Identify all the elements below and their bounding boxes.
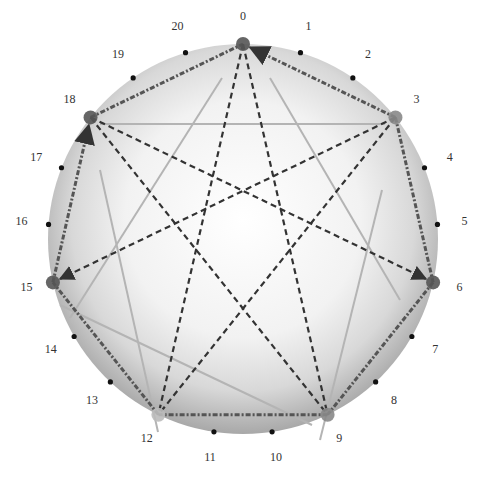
node-label: 17 bbox=[30, 150, 42, 164]
node-label: 15 bbox=[21, 280, 33, 294]
tick-dot bbox=[131, 75, 136, 80]
sphere-background bbox=[48, 44, 438, 434]
node-label: 5 bbox=[461, 214, 467, 228]
tick-dot bbox=[72, 334, 77, 339]
tick-dot bbox=[373, 379, 378, 384]
node-15 bbox=[46, 275, 60, 289]
tick-dot bbox=[409, 334, 414, 339]
node-3 bbox=[388, 110, 402, 124]
node-label: 6 bbox=[456, 280, 462, 294]
node-label: 19 bbox=[112, 47, 124, 61]
node-label: 4 bbox=[447, 150, 453, 164]
node-label: 16 bbox=[16, 214, 28, 228]
node-9 bbox=[321, 408, 335, 422]
node-label: 11 bbox=[204, 450, 216, 464]
node-label: 7 bbox=[432, 342, 438, 356]
tick-dot bbox=[183, 50, 188, 55]
tick-dot bbox=[350, 75, 355, 80]
node-label: 2 bbox=[365, 47, 371, 61]
node-label: 8 bbox=[391, 393, 397, 407]
node-label: 14 bbox=[45, 342, 57, 356]
node-label: 9 bbox=[336, 431, 342, 445]
node-label: 0 bbox=[240, 9, 246, 23]
tick-dot bbox=[269, 429, 274, 434]
tick-dot bbox=[298, 50, 303, 55]
node-label: 13 bbox=[86, 393, 98, 407]
node-0 bbox=[236, 37, 250, 51]
node-label: 10 bbox=[270, 450, 282, 464]
tick-dot bbox=[59, 165, 64, 170]
tick-dot bbox=[46, 222, 51, 227]
node-label: 20 bbox=[172, 19, 184, 33]
node-label: 1 bbox=[305, 19, 311, 33]
tick-dot bbox=[211, 429, 216, 434]
node-label: 3 bbox=[414, 92, 420, 106]
node-18 bbox=[84, 110, 98, 124]
node-12 bbox=[151, 408, 165, 422]
tick-dot bbox=[422, 165, 427, 170]
tick-dot bbox=[108, 379, 113, 384]
circular-diagram: 01234567891011121314151617181920 bbox=[0, 0, 485, 489]
node-label: 12 bbox=[141, 431, 153, 445]
tick-dot bbox=[435, 222, 440, 227]
node-6 bbox=[426, 275, 440, 289]
node-label: 18 bbox=[63, 92, 75, 106]
